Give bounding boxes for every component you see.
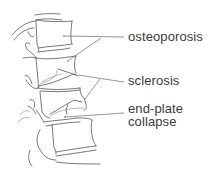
label-osteoporosis: osteoporosis: [128, 31, 203, 43]
vertebra-3: [38, 88, 86, 118]
leader-osteoporosis: [65, 36, 124, 37]
label-collapse: collapse: [128, 116, 177, 128]
label-sclerosis: sclerosis: [128, 75, 179, 87]
vertebrae-illustration: [0, 0, 211, 177]
leader-lines: [65, 36, 124, 117]
vertebra-4: [18, 100, 100, 166]
leader-end-plate-collapse: [65, 113, 124, 117]
vertebra-2: [23, 43, 78, 89]
spine-diagram: osteoporosis sclerosis end-plate collaps…: [0, 0, 211, 177]
vertebra-1: [12, 14, 72, 52]
leader-sclerosis: [78, 75, 124, 82]
leader-osteoporosis-2: [69, 38, 101, 60]
leader-sclerosis-2: [85, 79, 100, 99]
